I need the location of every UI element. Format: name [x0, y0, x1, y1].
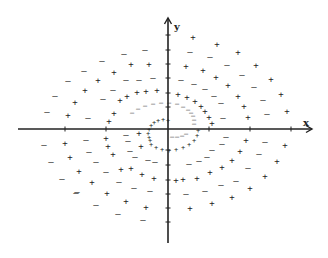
minus-marker: – [178, 75, 184, 85]
minus-marker: – [93, 157, 99, 167]
plus-marker: + [192, 137, 196, 145]
plus-marker: + [243, 135, 249, 145]
axes [18, 18, 312, 243]
plus-marker: + [160, 146, 164, 154]
plus-marker: + [187, 203, 193, 213]
minus-marker: – [136, 75, 142, 85]
plus-marker: + [143, 202, 149, 212]
minus-marker: – [260, 95, 266, 105]
minus-marker: – [152, 157, 158, 167]
plus-marker: + [82, 85, 88, 95]
plus-marker: + [72, 97, 78, 107]
plus-marker: + [67, 152, 73, 162]
plus-marker: + [136, 128, 142, 138]
minus-marker: – [209, 145, 215, 155]
plus-marker: + [229, 155, 235, 165]
plus-marker: + [111, 108, 117, 118]
minus-marker: – [73, 188, 79, 198]
plus-marker: + [148, 137, 152, 145]
plus-marker: + [219, 162, 225, 172]
plus-marker: + [174, 146, 178, 154]
plus-marker: + [194, 173, 200, 183]
x-axis-label: x [303, 117, 310, 128]
minus-marker: – [52, 91, 58, 101]
minus-marker: – [100, 94, 106, 104]
plus-marker: + [110, 149, 116, 159]
plus-marker: + [247, 183, 253, 193]
plus-marker: + [62, 138, 68, 148]
plus-marker: + [235, 47, 241, 57]
plus-marker: + [237, 146, 243, 156]
plus-marker: + [214, 39, 220, 49]
minus-marker: – [44, 107, 50, 117]
plus-marker: + [156, 117, 160, 125]
minus-marker: – [145, 155, 151, 165]
plus-marker: + [183, 61, 189, 71]
minus-marker: – [233, 176, 239, 186]
plus-marker: + [154, 144, 158, 152]
plus-marker: + [118, 164, 124, 174]
plus-marker: + [123, 196, 129, 206]
phase-plane-diagram: –––++–+–+––––+–+++–+–+++–++++––+++–+––+–… [0, 0, 328, 258]
minus-marker: – [211, 91, 217, 101]
minus-marker: – [81, 66, 87, 76]
plus-marker: + [138, 141, 144, 151]
minus-marker: – [202, 186, 208, 196]
plus-marker: + [245, 112, 251, 122]
minus-marker: – [150, 73, 156, 83]
minus-marker: – [218, 98, 224, 108]
minus-marker: – [103, 167, 109, 177]
minus-marker: – [115, 209, 121, 219]
minus-marker: – [99, 56, 105, 66]
plus-marker: + [253, 60, 259, 70]
plus-marker: + [229, 192, 235, 202]
minus-marker: – [207, 52, 213, 62]
minus-marker: – [110, 85, 116, 95]
plus-marker: + [207, 167, 213, 177]
minus-marker: – [143, 102, 148, 110]
plus-marker: + [134, 87, 140, 97]
y-axis-label: y [173, 21, 181, 32]
minus-marker: – [130, 109, 135, 117]
plus-marker: + [166, 117, 170, 125]
minus-marker: – [136, 105, 141, 113]
minus-marker: – [65, 76, 71, 86]
plus-marker: + [95, 75, 101, 85]
minus-marker: – [131, 183, 137, 193]
plus-marker: + [65, 110, 71, 120]
plus-marker: + [139, 169, 145, 179]
plus-marker: + [184, 92, 190, 102]
minus-marker: – [224, 60, 230, 70]
diagram-canvas: –––++–+–+––––+–+++–+–+++–++++––+++–+––+–… [0, 0, 328, 258]
plus-marker: + [124, 91, 130, 101]
plus-marker: + [187, 141, 191, 149]
minus-marker: – [123, 75, 129, 85]
plus-marker: + [106, 116, 112, 126]
minus-marker: – [186, 159, 192, 169]
minus-marker: – [147, 186, 153, 196]
minus-marker: – [83, 135, 89, 145]
minus-marker: – [48, 157, 54, 167]
plus-marker: + [151, 173, 157, 183]
plus-marker: + [128, 59, 134, 69]
plus-marker: + [111, 67, 117, 77]
plus-marker: + [268, 74, 274, 84]
minus-marker: – [219, 139, 225, 149]
plus-marker: + [278, 89, 284, 99]
minus-marker: – [239, 70, 245, 80]
plus-marker: + [104, 188, 110, 198]
plus-marker: + [180, 174, 186, 184]
minus-marker: – [220, 113, 226, 123]
plus-marker: + [262, 171, 268, 181]
minus-marker: – [202, 84, 208, 94]
plus-marker: + [89, 177, 95, 187]
minus-marker: – [196, 156, 202, 166]
minus-marker: – [41, 140, 47, 150]
minus-marker: – [59, 174, 65, 184]
minus-marker: – [256, 149, 262, 159]
minus-marker: – [93, 200, 99, 210]
plus-marker: + [175, 89, 181, 99]
minus-marker: – [116, 177, 122, 187]
minus-marker: – [132, 152, 138, 162]
minus-marker: – [264, 109, 270, 119]
